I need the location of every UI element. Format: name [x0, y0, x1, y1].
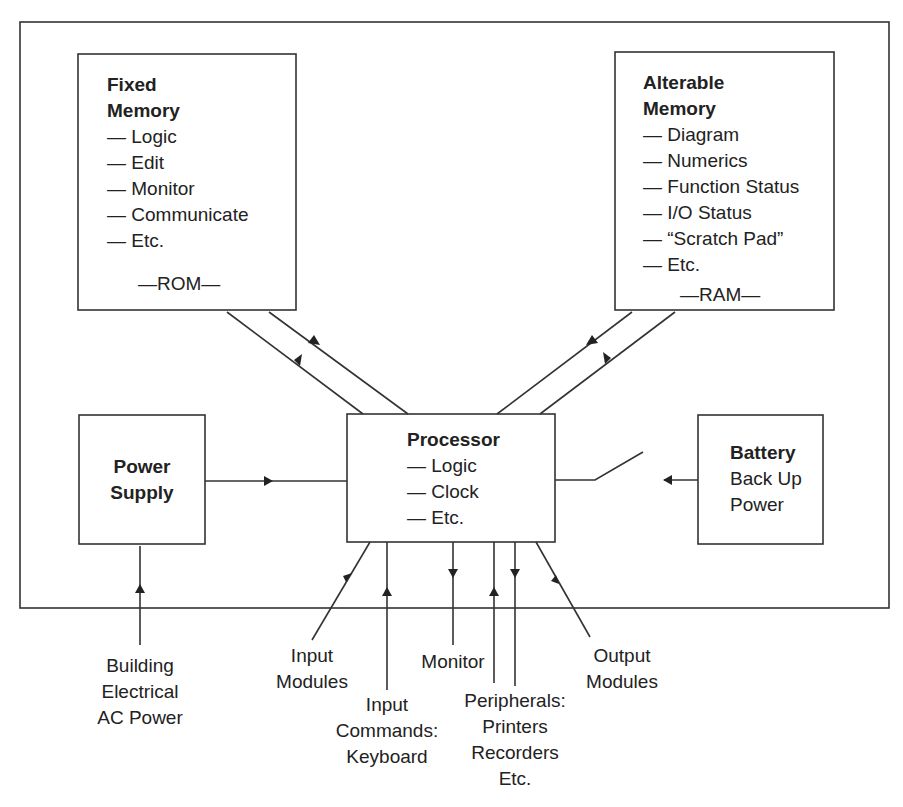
arrow-input-commands [382, 587, 392, 596]
alterable-memory-item: — Function Status [643, 174, 799, 200]
label-line: Modules [572, 669, 672, 695]
fixed-memory-title-2: Memory [107, 98, 249, 124]
peripherals-label: Peripherals: Printers Recorders Etc. [455, 688, 575, 792]
alterable-memory-item: — Etc. [643, 252, 799, 278]
fixed-memory-item: — Etc. [107, 228, 249, 254]
processor-block: Processor — Logic — Clock — Etc. [407, 427, 500, 531]
label-line: Electrical [85, 679, 195, 705]
label-line: Input [262, 643, 362, 669]
alterable-memory-block: Alterable Memory — Diagram — Numerics — … [643, 70, 799, 278]
arrow-proc-to-rom [294, 354, 302, 366]
input-commands-label: Input Commands: Keyboard [332, 692, 442, 770]
building-power-label: Building Electrical AC Power [85, 653, 195, 731]
alterable-memory-title-1: Alterable [643, 70, 799, 96]
rom-bus-up [227, 312, 363, 414]
label-line: Recorders [455, 740, 575, 766]
output-modules-line [536, 542, 590, 637]
arrow-peripherals-down [510, 569, 520, 578]
rom-label: —ROM— [138, 271, 220, 297]
alterable-memory-item: — Numerics [643, 148, 799, 174]
power-supply-block: Power Supply [79, 454, 205, 506]
input-modules-label: Input Modules [262, 643, 362, 695]
alterable-memory-item: — I/O Status [643, 200, 799, 226]
arrow-battery-feed [663, 475, 672, 485]
arrow-power-feed [264, 476, 273, 486]
label-line: Printers [455, 714, 575, 740]
arrow-ac-feed [135, 584, 145, 593]
battery-line-2: Power [730, 492, 802, 518]
label-line: Commands: [332, 718, 442, 744]
input-modules-line [312, 542, 370, 640]
arrow-rom-to-proc [308, 335, 320, 345]
label-line: Peripherals: [455, 688, 575, 714]
rom-bus-down [269, 312, 408, 414]
label-line: Keyboard [332, 744, 442, 770]
battery-switch [555, 452, 643, 480]
fixed-memory-item: — Communicate [107, 202, 249, 228]
label-line: Etc. [455, 766, 575, 792]
fixed-memory-item: — Edit [107, 150, 249, 176]
label-line: Output [572, 643, 672, 669]
processor-item: — Etc. [407, 505, 500, 531]
monitor-label: Monitor [413, 649, 493, 675]
fixed-memory-block: Fixed Memory — Logic — Edit — Monitor — … [107, 72, 249, 254]
ram-bus-down [497, 312, 632, 414]
battery-title: Battery [730, 440, 802, 466]
power-supply-title-2: Supply [79, 480, 205, 506]
alterable-memory-item: — Diagram [643, 122, 799, 148]
ram-bus-up [540, 312, 675, 414]
fixed-memory-item: — Monitor [107, 176, 249, 202]
label-line: Monitor [413, 649, 493, 675]
label-line: Input [332, 692, 442, 718]
processor-item: — Logic [407, 453, 500, 479]
alterable-memory-item: — “Scratch Pad” [643, 226, 799, 252]
label-line: AC Power [85, 705, 195, 731]
battery-block: Battery Back Up Power [730, 440, 802, 518]
battery-line-1: Back Up [730, 466, 802, 492]
power-supply-title-1: Power [79, 454, 205, 480]
arrow-peripherals-up [489, 587, 499, 596]
label-line: Building [85, 653, 195, 679]
fixed-memory-item: — Logic [107, 124, 249, 150]
processor-item: — Clock [407, 479, 500, 505]
alterable-memory-title-2: Memory [643, 96, 799, 122]
ram-label: —RAM— [680, 282, 760, 308]
arrow-monitor [448, 569, 458, 578]
processor-title: Processor [407, 427, 500, 453]
fixed-memory-title-1: Fixed [107, 72, 249, 98]
output-modules-label: Output Modules [572, 643, 672, 695]
